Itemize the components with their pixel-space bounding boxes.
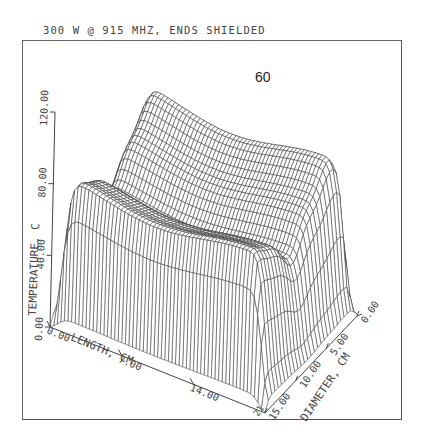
x-tick-label: 14.00 bbox=[189, 382, 221, 403]
surface-plot: 0.0040.0080.00120.00 TEMPERATURE, C 0.00… bbox=[0, 0, 423, 438]
z-tick-label: 120.00 bbox=[38, 90, 50, 126]
z-axis: 0.0040.0080.00120.00 TEMPERATURE, C bbox=[26, 90, 55, 341]
z-tick-label: 0.00 bbox=[33, 317, 45, 341]
z-axis-label: TEMPERATURE, C bbox=[26, 223, 42, 316]
y-tick-label: 0.00 bbox=[359, 299, 382, 325]
z-tick-label: 80.00 bbox=[36, 167, 48, 197]
